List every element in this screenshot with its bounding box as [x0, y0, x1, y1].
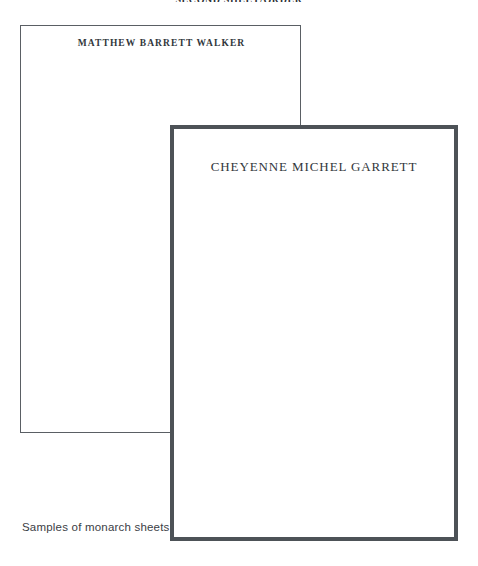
monarch-sheet-front: CHEYENNE MICHEL GARRETT — [170, 125, 458, 541]
samples-caption: Samples of monarch sheets — [22, 521, 170, 533]
sheet-name-line: MATTHEW BARRETT WALKER — [21, 38, 302, 48]
sheet-name-line: CHEYENNE MICHEL GARRETT — [174, 159, 454, 175]
page-top-heading: SECOND SHEET/ORDER — [0, 0, 478, 2]
